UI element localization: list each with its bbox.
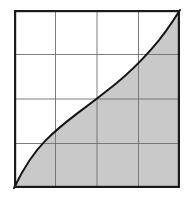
grid-square-area-figure: Area under curve on a grid square A squa… — [0, 0, 193, 199]
figure-container: Area under curve on a grid square A squa… — [0, 0, 193, 199]
